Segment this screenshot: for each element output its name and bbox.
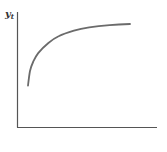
growth-curve xyxy=(28,24,130,86)
chart: yt xyxy=(0,0,167,152)
chart-canvas xyxy=(0,0,167,152)
y-axis-label: yt xyxy=(5,9,14,20)
